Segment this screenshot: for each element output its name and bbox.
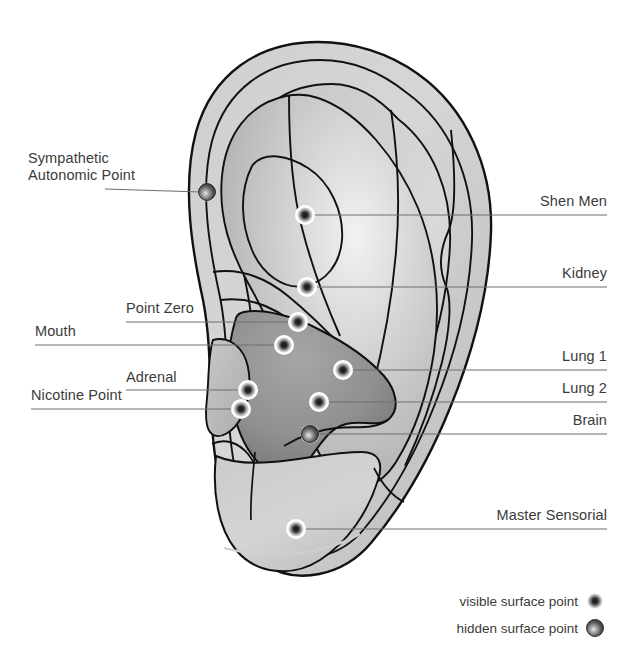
- label-mouth-line1: Mouth: [35, 323, 76, 340]
- point-point-zero: [290, 314, 306, 330]
- legend-label-hidden-surface-point: hidden surface point: [0, 621, 578, 637]
- label-shen-men-line1: Shen Men: [0, 193, 607, 210]
- legend-marker-hidden-surface-point: [587, 620, 604, 637]
- ear-acupuncture-chart: SympatheticAutonomic PointPoint ZeroMout…: [0, 0, 637, 669]
- label-master-sensorial-line1: Master Sensorial: [0, 507, 607, 524]
- label-kidney: Kidney: [0, 265, 607, 282]
- label-point-zero: Point Zero: [126, 300, 194, 317]
- legend-label-visible-surface-point: visible surface point: [0, 594, 578, 610]
- label-shen-men: Shen Men: [0, 193, 607, 210]
- label-lung-2: Lung 2: [0, 380, 607, 397]
- label-sympathetic-autonomic-point: SympatheticAutonomic Point: [28, 150, 135, 184]
- label-lung-1-line1: Lung 1: [0, 348, 607, 365]
- label-point-zero-line1: Point Zero: [126, 300, 194, 317]
- ear-diagram-svg: [0, 0, 637, 669]
- legend-markers: [585, 591, 605, 638]
- label-brain-line1: Brain: [0, 412, 607, 429]
- ear-anatomy: [189, 42, 491, 576]
- label-sympathetic-autonomic-point-line1: Sympathetic: [28, 150, 135, 167]
- label-master-sensorial: Master Sensorial: [0, 507, 607, 524]
- label-mouth: Mouth: [35, 323, 76, 340]
- label-kidney-line1: Kidney: [0, 265, 607, 282]
- label-sympathetic-autonomic-point-line2: Autonomic Point: [28, 167, 135, 184]
- label-lung-1: Lung 1: [0, 348, 607, 365]
- leader-sympathetic-autonomic-point: [105, 189, 201, 192]
- legend-marker-visible-surface-point: [587, 593, 603, 609]
- label-brain: Brain: [0, 412, 607, 429]
- label-lung-2-line1: Lung 2: [0, 380, 607, 397]
